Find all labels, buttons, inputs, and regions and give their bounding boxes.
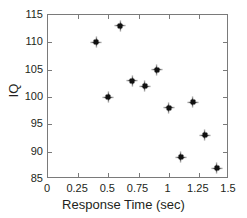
data-point-core bbox=[142, 84, 147, 89]
y-tick-label: 105 bbox=[14, 63, 43, 74]
x-tick-mark-top bbox=[139, 15, 140, 19]
y-tick-mark bbox=[48, 42, 52, 43]
plot-area bbox=[47, 14, 228, 178]
x-tick-label: 0.75 bbox=[127, 183, 148, 194]
x-tick-label: 0.25 bbox=[66, 183, 87, 194]
y-tick-label: 85 bbox=[14, 173, 43, 184]
data-point bbox=[150, 63, 163, 76]
y-tick-mark-right bbox=[223, 97, 227, 98]
x-tick-label: 1 bbox=[165, 183, 171, 194]
data-point-core bbox=[166, 105, 171, 110]
data-point-core bbox=[202, 133, 207, 138]
x-tick-mark bbox=[78, 173, 79, 177]
data-point bbox=[90, 36, 103, 49]
data-point-core bbox=[190, 100, 195, 105]
x-tick-label: 1.5 bbox=[220, 183, 235, 194]
x-tick-label: 0 bbox=[44, 183, 50, 194]
data-point bbox=[126, 74, 139, 87]
x-tick-mark-top bbox=[169, 15, 170, 19]
data-point bbox=[186, 96, 199, 109]
data-point bbox=[174, 151, 187, 164]
y-tick-mark-right bbox=[223, 152, 227, 153]
y-tick-mark bbox=[48, 97, 52, 98]
data-point-core bbox=[130, 78, 135, 83]
x-tick-label: 0.5 bbox=[100, 183, 115, 194]
x-axis-title: Response Time (sec) bbox=[0, 198, 247, 211]
y-tick-mark-right bbox=[223, 42, 227, 43]
x-tick-label: 1.25 bbox=[187, 183, 208, 194]
y-tick-label: 90 bbox=[14, 145, 43, 156]
y-tick-mark-right bbox=[223, 124, 227, 125]
y-tick-label: 95 bbox=[14, 118, 43, 129]
y-tick-label: 115 bbox=[14, 9, 43, 20]
data-point-core bbox=[94, 40, 99, 45]
x-tick-mark bbox=[199, 173, 200, 177]
data-point bbox=[162, 101, 175, 114]
y-tick-mark bbox=[48, 152, 52, 153]
data-point-core bbox=[154, 67, 159, 72]
x-tick-mark-top bbox=[108, 15, 109, 19]
data-point bbox=[114, 19, 127, 32]
y-tick-mark bbox=[48, 124, 52, 125]
data-point-core bbox=[214, 166, 219, 171]
y-axis-title: IQ bbox=[7, 76, 20, 106]
y-tick-mark bbox=[48, 70, 52, 71]
data-point bbox=[138, 80, 151, 93]
x-tick-mark bbox=[108, 173, 109, 177]
data-point-core bbox=[178, 155, 183, 160]
data-point-core bbox=[106, 95, 111, 100]
y-tick-mark-right bbox=[223, 70, 227, 71]
data-point-core bbox=[118, 23, 123, 28]
data-point bbox=[210, 162, 223, 175]
y-tick-label: 110 bbox=[14, 36, 43, 47]
x-tick-mark bbox=[169, 173, 170, 177]
x-tick-mark-top bbox=[78, 15, 79, 19]
scatter-plot-figure: 00.250.50.7511.251.5 859095100105110115 … bbox=[0, 0, 247, 218]
data-point bbox=[102, 91, 115, 104]
x-tick-mark bbox=[139, 173, 140, 177]
x-tick-mark-top bbox=[199, 15, 200, 19]
data-point bbox=[198, 129, 211, 142]
